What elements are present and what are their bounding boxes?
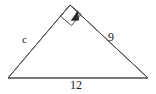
side-label-c: c — [22, 34, 27, 45]
right-angle-arrow-icon — [71, 11, 78, 21]
side-label-9: 9 — [108, 31, 114, 43]
side-label-12: 12 — [70, 79, 82, 91]
geometry-figure: c 9 12 — [0, 0, 156, 94]
